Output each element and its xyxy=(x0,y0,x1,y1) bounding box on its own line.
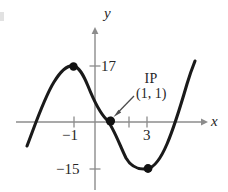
cubic-curve xyxy=(27,61,195,169)
y-tick-label-minus-15: −15 xyxy=(56,162,79,177)
local-minimum-point xyxy=(144,164,153,173)
local-maximum-point xyxy=(69,62,77,70)
graph-figure: y x 17 −15 −1 3 IP (1, 1) xyxy=(0,0,228,192)
inflection-point-annotation: IP (1, 1) xyxy=(136,72,166,101)
y-axis-label: y xyxy=(104,6,111,21)
inflection-point-marker xyxy=(106,116,115,125)
inflection-point-label: IP xyxy=(136,72,166,86)
x-axis-label: x xyxy=(211,114,218,129)
cubic-function-plot xyxy=(0,0,228,192)
ip-leader-arrow xyxy=(114,96,135,117)
x-tick-label-minus-1: −1 xyxy=(62,128,78,143)
y-tick-label-17: 17 xyxy=(101,59,116,74)
inflection-point-coords: (1, 1) xyxy=(136,87,166,101)
x-tick-label-3: 3 xyxy=(143,128,151,143)
